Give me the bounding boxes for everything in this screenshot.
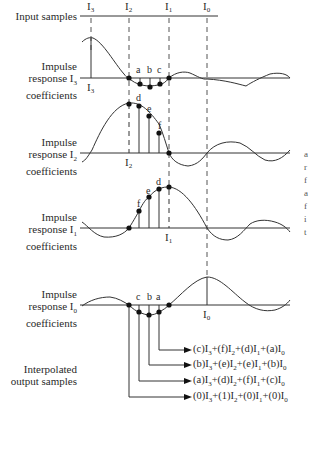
axis-symbol-I3: I3 — [87, 81, 94, 95]
output-equation-4: (0)I3+(1)I2+(0)I1+(0)I0 — [193, 390, 288, 404]
axis-symbol-I0: I0 — [203, 308, 210, 322]
ir0-coef-b: b — [147, 291, 152, 302]
axis-symbol-I2: I2 — [125, 156, 132, 170]
ir0-label: Impulse response I0 coefficients — [26, 288, 77, 329]
top-symbol-I0: I0 — [203, 0, 210, 14]
clipped-right-text: a r f a f i t — [304, 148, 308, 239]
ir3-coef-b: b — [147, 64, 152, 75]
ir2-coef-f: f — [158, 120, 161, 131]
ir3-label: Impulse response I3 coefficients — [26, 60, 77, 101]
top-symbol-I3: I3 — [87, 0, 94, 14]
output-label: Interpolated output samples — [11, 363, 77, 387]
output-equation-1: (c)I3+(f)I2+(d)I1+(a)I0 — [193, 343, 285, 357]
ir1-coef-d: d — [156, 176, 161, 187]
arrow-heads — [184, 347, 192, 400]
ir1-coef-f: f — [137, 198, 140, 209]
axis-symbol-I1: I1 — [165, 231, 172, 245]
ir1-coef-e: e — [146, 185, 150, 196]
output-equation-3: (a)I3+(d)I2+(f)I1+(c)I0 — [193, 374, 285, 388]
impulse-response-I1 — [80, 187, 290, 240]
ir1-label: Impulse response I1 coefficients — [26, 211, 77, 252]
input-samples-label: Input samples — [16, 10, 77, 22]
ir2-coef-d: d — [136, 92, 141, 103]
top-symbol-I1: I1 — [165, 0, 172, 14]
ir2-label: Impulse response I2 coefficients — [26, 136, 77, 177]
ir3-coef-a: a — [136, 64, 140, 75]
impulse-response-I2 — [80, 103, 290, 166]
impulse-response-I3 — [80, 38, 290, 87]
ir0-coef-a: a — [156, 291, 160, 302]
impulse-response-I0 — [80, 277, 290, 315]
ir2-coef-e: e — [147, 103, 151, 114]
output-connectors — [129, 307, 186, 397]
ir0-coef-c: c — [136, 291, 140, 302]
ir3-coef-c: c — [157, 64, 161, 75]
top-symbol-I2: I2 — [125, 0, 132, 14]
output-equation-2: (b)I3+(e)I2+(e)I1+(b)I0 — [193, 358, 287, 372]
